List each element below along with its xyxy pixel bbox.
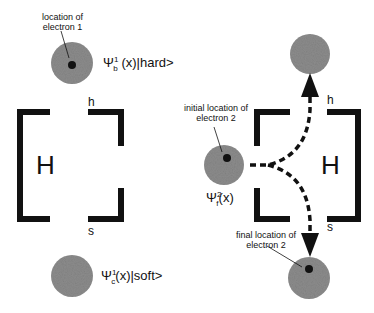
note-line: final location of [236,230,296,240]
arrow-up-icon [301,73,319,97]
right-s-label: s [327,220,333,234]
note-line: initial location of [184,103,248,113]
diagram-canvas [0,0,374,313]
hard-exit-cloud [290,34,330,74]
final-note: final location of electron 2 [236,230,296,250]
left-s-label: s [88,224,94,238]
electron2-initial-cloud [204,145,244,185]
state-c-label: Ψ1c(x)|soft> [101,268,162,286]
state-f-label: Ψ2f(x) [206,190,234,208]
note-line: electron 2 [184,113,248,123]
right-box-label: H [321,150,340,181]
note-line: electron 2 [236,240,296,250]
electron1-cloud-hard [51,42,93,84]
left-h-label: h [88,95,95,109]
note-line: electron 1 [42,22,83,32]
note-line: location of [42,12,83,22]
left-box-label: H [36,150,55,181]
right-h-label: h [327,93,334,107]
electron1-note: location of electron 1 [42,12,83,32]
initial-note: initial location of electron 2 [184,103,248,123]
arrow-down-icon [301,233,319,257]
electron1-cloud-soft [51,255,93,297]
state-b-label: Ψ1b (x)|hard> [103,55,174,73]
electron2-final-cloud [288,257,330,299]
